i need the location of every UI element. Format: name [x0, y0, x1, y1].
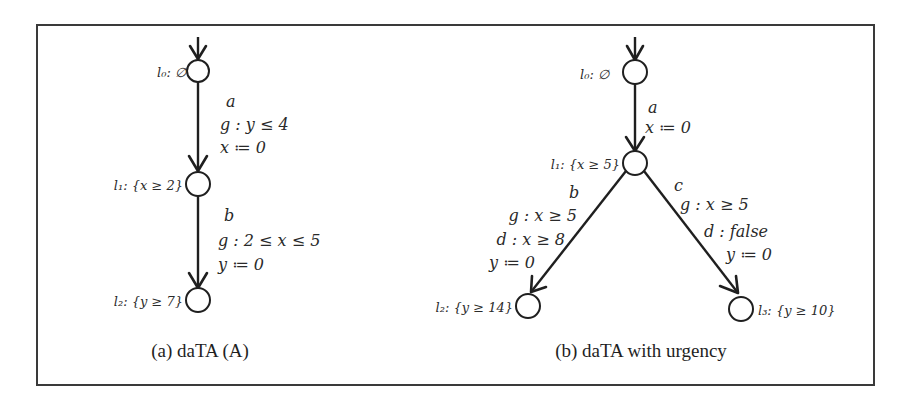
transition-b-l1-l3-guard: g : x ≥ 5: [680, 195, 749, 214]
transition-a-l0-l1-reset: x ≔ 0: [220, 138, 266, 157]
panel-a: l₀: ∅ a g : y ≤ 4 x ≔ 0 l₁: {x ≥ 2} b g …: [114, 37, 321, 362]
panel-b: l₀: ∅ a x ≔ 0 l₁: {x ≥ 5} b g : x ≥ 5 d …: [436, 37, 836, 362]
state-b-l2: [516, 294, 540, 318]
state-b-l0: [623, 60, 647, 84]
transition-b-l0-l1-reset: x ≔ 0: [645, 118, 691, 137]
timed-automata-figure: l₀: ∅ a g : y ≤ 4 x ≔ 0 l₁: {x ≥ 2} b g …: [0, 0, 907, 407]
transition-a-l1-l2: [189, 196, 207, 288]
state-b-l3: [729, 297, 753, 321]
state-a-l1-label: l₁: {x ≥ 2}: [114, 178, 183, 193]
transition-a-l0-l1-guard: g : y ≤ 4: [220, 115, 289, 134]
initial-arrow-a: [190, 37, 206, 59]
initial-arrow-b: [627, 37, 643, 60]
transition-b-l1-l2-deadline: d : x ≥ 8: [496, 230, 565, 249]
transition-b-l0-l1-action: a: [648, 98, 658, 117]
transition-b-l1-l3-action: c: [674, 176, 683, 195]
state-a-l0: [187, 60, 209, 82]
transition-a-l1-l2-reset: y ≔ 0: [217, 255, 264, 274]
transition-a-l0-l1: [189, 82, 207, 171]
transition-b-l1-l2-guard: g : x ≥ 5: [508, 206, 577, 225]
state-a-l0-label: l₀: ∅: [157, 65, 187, 80]
state-a-l2-label: l₂: {y ≥ 7}: [114, 294, 183, 309]
state-b-l0-label: l₀: ∅: [580, 67, 610, 82]
state-a-l2: [186, 288, 210, 312]
transition-b-l1-l3-reset: y ≔ 0: [725, 245, 772, 264]
state-b-l1: [623, 151, 647, 175]
state-a-l1: [186, 172, 210, 196]
state-b-l1-label: l₁: {x ≥ 5}: [551, 157, 620, 172]
state-b-l3-label: l₃: {y ≥ 10}: [758, 303, 835, 318]
caption-a: (a) daTA (A): [151, 340, 249, 362]
transition-b-l1-l3-deadline: d : false: [704, 222, 768, 241]
transition-b-l0-l1: [626, 84, 644, 151]
transition-a-l1-l2-action: b: [224, 206, 234, 225]
state-b-l2-label: l₂: {y ≥ 14}: [436, 300, 513, 315]
transition-a-l1-l2-guard: g : 2 ≤ x ≤ 5: [218, 231, 320, 250]
transition-b-l1-l2-action: b: [569, 183, 579, 202]
transition-a-l0-l1-action: a: [226, 92, 236, 111]
transition-b-l1-l2-reset: y ≔ 0: [488, 253, 535, 272]
caption-b: (b) daTA with urgency: [555, 340, 727, 362]
